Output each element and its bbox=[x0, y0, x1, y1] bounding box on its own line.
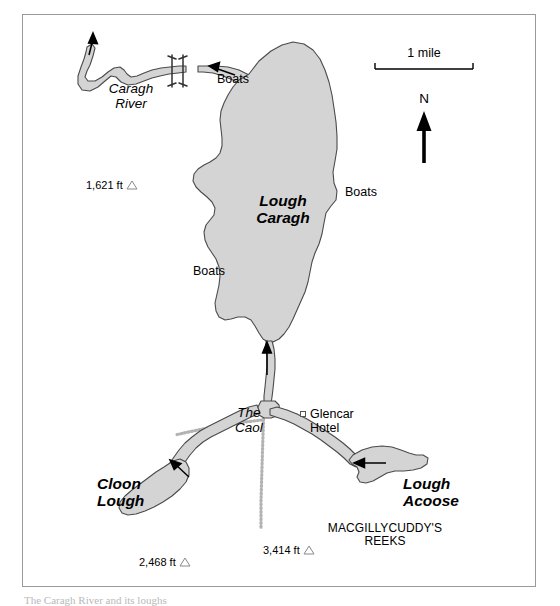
boats-east-label: Boats bbox=[345, 185, 377, 199]
lough-caragh-label: Lough Caragh bbox=[228, 192, 338, 227]
glencar-hotel-label: GlencarHotel bbox=[300, 407, 388, 435]
lough-acoose-label: Lough Acoose bbox=[403, 475, 513, 510]
macgillycuddys-reeks-label: MACGILLYCUDDY'SREEKS bbox=[307, 522, 463, 549]
north-arrow-label: N bbox=[408, 91, 440, 106]
the-caol-label: The Caol bbox=[218, 405, 280, 435]
reeks-line1: MACGILLYCUDDY'S bbox=[328, 521, 442, 535]
figure-caption-text: The Caragh River and its loughs bbox=[24, 594, 167, 606]
elevation-1621: 1,621 ft bbox=[86, 179, 138, 191]
map-page: Caragh River Boats Lough Caragh Boats Bo… bbox=[0, 0, 560, 606]
hotel-marker-icon bbox=[300, 411, 306, 417]
scale-bar-label: 1 mile bbox=[375, 46, 473, 60]
elevation-triangle-icon bbox=[179, 557, 191, 567]
boats-west-label: Boats bbox=[193, 264, 225, 278]
lough-caragh-label-text: Lough Caragh bbox=[256, 192, 309, 226]
elevation-triangle-icon bbox=[126, 180, 138, 190]
elevation-triangle-icon bbox=[303, 545, 315, 555]
the-caol-label-text: The Caol bbox=[235, 405, 263, 435]
lough-acoose-label-text: Lough Acoose bbox=[403, 475, 459, 509]
north-arrow-head bbox=[417, 111, 432, 131]
cloon-lough-label: Cloon Lough bbox=[97, 475, 201, 510]
north-arrow-label-text: N bbox=[419, 91, 429, 106]
elevation-3414-text: 3,414 ft bbox=[263, 544, 300, 556]
elevation-2468-text: 2,468 ft bbox=[139, 556, 176, 568]
caragh-river-label-text: Caragh River bbox=[109, 81, 153, 111]
scale-bar-label-text: 1 mile bbox=[407, 46, 440, 60]
boats-west-label-text: Boats bbox=[193, 264, 225, 278]
elevation-1621-text: 1,621 ft bbox=[86, 179, 123, 191]
figure-caption: The Caragh River and its loughs bbox=[24, 594, 167, 606]
glencar-hotel-line1: Glencar bbox=[310, 407, 354, 421]
north-arrow-graphic bbox=[417, 111, 432, 163]
boats-north-label: Boats bbox=[217, 72, 249, 86]
map-frame: Caragh River Boats Lough Caragh Boats Bo… bbox=[22, 14, 536, 587]
scale-bar-graphic bbox=[375, 63, 473, 69]
elevation-2468: 2,468 ft bbox=[139, 556, 191, 568]
glencar-hotel-line2: Hotel bbox=[300, 421, 339, 435]
boats-north-label-text: Boats bbox=[217, 72, 249, 86]
cloon-lough-label-text: Cloon Lough bbox=[97, 475, 144, 509]
reeks-line2: REEKS bbox=[364, 534, 405, 548]
water-bodies bbox=[78, 42, 428, 515]
boats-east-label-text: Boats bbox=[345, 185, 377, 199]
elevation-3414: 3,414 ft bbox=[263, 544, 315, 556]
caragh-river-label: Caragh River bbox=[89, 81, 173, 111]
